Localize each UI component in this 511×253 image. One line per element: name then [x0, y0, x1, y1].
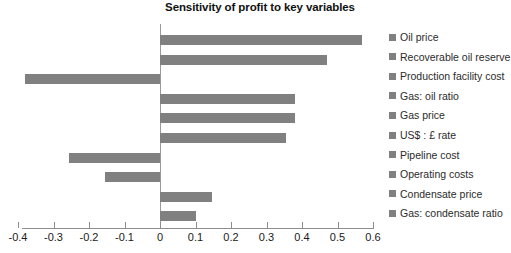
- legend-item[interactable]: Operating costs: [389, 167, 474, 181]
- bar-row: [0, 35, 384, 45]
- x-axis-tick-label: 0.5: [318, 231, 358, 243]
- x-axis-tick-label: 0.1: [176, 231, 216, 243]
- bar-row: [0, 153, 384, 163]
- x-axis-line: [22, 228, 374, 229]
- x-axis-tick-label: -0.2: [69, 231, 109, 243]
- legend-swatch-icon: [389, 53, 396, 60]
- x-axis-tick-label: -0.3: [34, 231, 74, 243]
- legend-swatch-icon: [389, 210, 396, 217]
- bar: [160, 211, 196, 221]
- legend-item[interactable]: Production facility cost: [389, 69, 504, 83]
- bar-row: [0, 94, 384, 104]
- legend-item[interactable]: Oil price: [389, 30, 439, 44]
- x-axis-tick: [196, 222, 197, 228]
- legend-item-label: US$ : £ rate: [400, 129, 456, 141]
- bar: [160, 55, 327, 65]
- chart-title: Sensitivity of profit to key variables: [120, 1, 400, 13]
- legend-item-label: Gas price: [400, 109, 445, 121]
- x-axis-tick: [54, 222, 55, 228]
- legend-item[interactable]: Pipeline cost: [389, 148, 460, 162]
- legend-item-label: Recoverable oil reserve: [400, 51, 510, 63]
- legend-item[interactable]: Gas price: [389, 108, 445, 122]
- bar-row: [0, 133, 384, 143]
- plot-area: [0, 24, 384, 228]
- legend-swatch-icon: [389, 34, 396, 41]
- x-axis-tick-label: 0.2: [211, 231, 251, 243]
- legend-item[interactable]: Gas: condensate ratio: [389, 206, 503, 220]
- bar: [105, 172, 160, 182]
- legend-item[interactable]: Gas: oil ratio: [389, 89, 459, 103]
- x-axis-tick: [373, 222, 374, 228]
- x-axis-tick: [125, 222, 126, 228]
- x-axis-tick-label: -0.4: [0, 231, 38, 243]
- bar: [160, 94, 295, 104]
- legend-swatch-icon: [389, 151, 396, 158]
- legend-item-label: Gas: condensate ratio: [400, 207, 503, 219]
- legend-swatch-icon: [389, 171, 396, 178]
- x-axis-tick: [302, 222, 303, 228]
- bar-row: [0, 192, 384, 202]
- x-axis-tick: [160, 222, 161, 228]
- x-axis-tick-label: 0: [140, 231, 180, 243]
- bar: [69, 153, 160, 163]
- legend-item[interactable]: Recoverable oil reserve: [389, 50, 510, 64]
- x-axis-tick-label: -0.1: [105, 231, 145, 243]
- bar: [25, 74, 160, 84]
- x-axis-tick-label: 0.3: [247, 231, 287, 243]
- legend-item-label: Operating costs: [400, 168, 474, 180]
- legend-item-label: Gas: oil ratio: [400, 90, 459, 102]
- legend-item-label: Production facility cost: [400, 70, 504, 82]
- x-axis-tick: [267, 222, 268, 228]
- legend-item-label: Pipeline cost: [400, 149, 460, 161]
- legend-swatch-icon: [389, 190, 396, 197]
- legend-item[interactable]: US$ : £ rate: [389, 128, 456, 142]
- bar-row: [0, 211, 384, 221]
- bar: [160, 192, 212, 202]
- bar: [160, 113, 295, 123]
- bar-row: [0, 55, 384, 65]
- bar-row: [0, 113, 384, 123]
- x-axis-tick: [338, 222, 339, 228]
- legend-item[interactable]: Condensate price: [389, 187, 482, 201]
- legend-swatch-icon: [389, 73, 396, 80]
- sensitivity-bar-chart: Sensitivity of profit to key variables -…: [0, 0, 511, 253]
- legend-item-label: Condensate price: [400, 188, 482, 200]
- bar: [160, 35, 362, 45]
- bar-row: [0, 74, 384, 84]
- legend-swatch-icon: [389, 112, 396, 119]
- x-axis-tick-label: 0.6: [353, 231, 393, 243]
- x-axis-tick: [89, 222, 90, 228]
- bar: [160, 133, 286, 143]
- x-axis-tick: [231, 222, 232, 228]
- legend-swatch-icon: [389, 132, 396, 139]
- legend-item-label: Oil price: [400, 31, 439, 43]
- legend-swatch-icon: [389, 92, 396, 99]
- x-axis-tick-label: 0.4: [282, 231, 322, 243]
- x-axis-tick: [18, 222, 19, 228]
- bar-row: [0, 172, 384, 182]
